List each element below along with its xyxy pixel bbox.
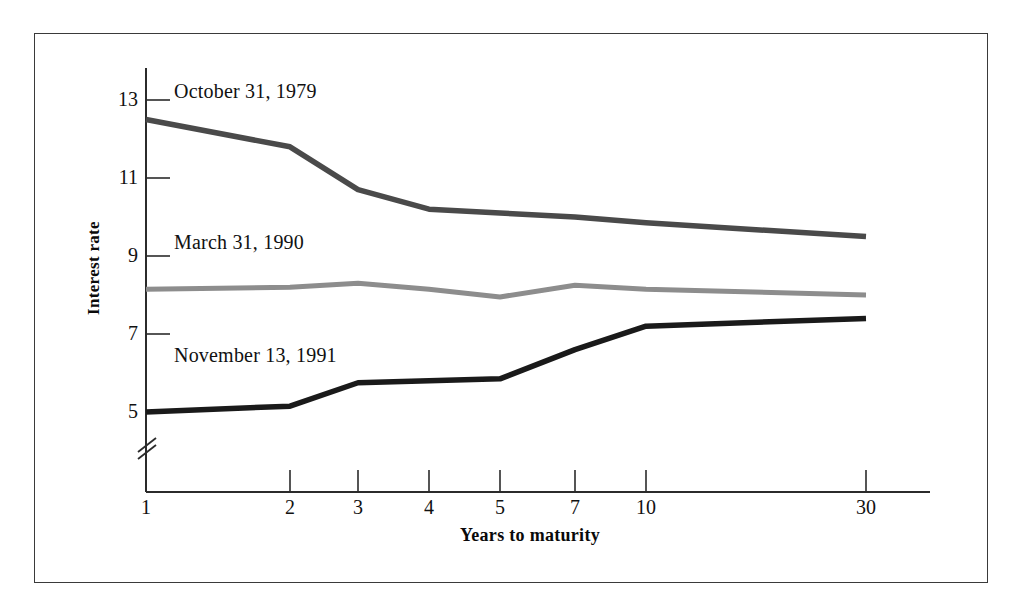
x-tick-label-30: 30 — [846, 496, 886, 519]
x-axis-title: Years to maturity — [320, 525, 740, 546]
series-label-1979: October 31, 1979 — [174, 80, 317, 103]
y-tick-label-9: 9 — [104, 244, 138, 267]
x-tick-label-3: 3 — [338, 496, 378, 519]
y-tick-label-11: 11 — [104, 166, 138, 189]
y-tick-label-5: 5 — [104, 400, 138, 423]
y-axis-title: Interest rate — [84, 168, 104, 368]
x-tick-label-1: 1 — [126, 496, 166, 519]
series-label-1991: November 13, 1991 — [174, 344, 337, 367]
y-tick-label-7: 7 — [104, 322, 138, 345]
series-line-1979 — [146, 120, 866, 237]
series-line-1990 — [146, 283, 866, 297]
x-tick-label-4: 4 — [409, 496, 449, 519]
x-tick-label-7: 7 — [555, 496, 595, 519]
series-label-1990: March 31, 1990 — [174, 231, 304, 254]
x-tick-label-10: 10 — [626, 496, 666, 519]
x-tick-label-2: 2 — [270, 496, 310, 519]
x-tick-label-5: 5 — [480, 496, 520, 519]
y-tick-label-13: 13 — [104, 88, 138, 111]
